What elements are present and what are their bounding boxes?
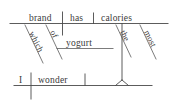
word-wonder: wonder bbox=[38, 75, 68, 85]
word-i: I bbox=[19, 75, 22, 85]
word-has: has bbox=[70, 13, 83, 23]
word-which: which bbox=[27, 29, 46, 54]
pedestal-left-leg bbox=[116, 80, 123, 86]
sentence-diagram: brand has calories which of yogurt the m… bbox=[0, 0, 178, 102]
pedestal-right-leg bbox=[122, 80, 129, 86]
word-of: of bbox=[48, 28, 60, 39]
word-most: most bbox=[142, 28, 159, 48]
word-yogurt: yogurt bbox=[66, 38, 92, 48]
diagram-canvas: brand has calories which of yogurt the m… bbox=[0, 0, 178, 102]
word-calories: calories bbox=[101, 13, 132, 23]
word-the: the bbox=[118, 28, 132, 42]
word-brand: brand bbox=[29, 13, 52, 23]
